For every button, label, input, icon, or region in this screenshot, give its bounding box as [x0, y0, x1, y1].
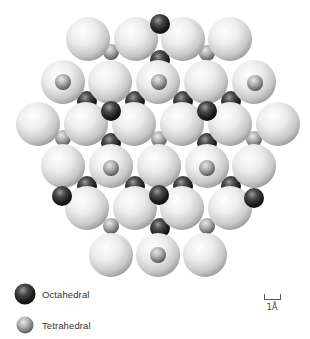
tetrahedral-site-atom [247, 75, 263, 91]
tetrahedral-site-atom [103, 160, 119, 176]
large-atom [232, 144, 276, 188]
atomic-lattice-diagram [0, 0, 310, 280]
tetrahedral-site-atom [151, 74, 167, 90]
large-atom [66, 17, 110, 61]
large-atom [16, 102, 60, 146]
scale-bar: 1Å [258, 294, 286, 312]
tetrahedral-site-atom [55, 74, 71, 90]
scale-bar-label: 1Å [258, 302, 286, 312]
light-sphere-icon [16, 316, 34, 334]
large-atom [41, 144, 85, 188]
scale-bar-bracket [264, 294, 281, 300]
octahedral-site-atom [244, 188, 264, 208]
tetrahedral-site-atom [150, 247, 166, 263]
octahedral-site-atom [52, 186, 72, 206]
dark-sphere-icon [14, 283, 36, 305]
legend-item-octahedral: Octahedral [14, 283, 89, 305]
large-atom [65, 186, 109, 230]
octahedral-site-atom [149, 185, 169, 205]
legend-label-octahedral: Octahedral [42, 289, 89, 300]
tetrahedral-site-atom [199, 160, 215, 176]
octahedral-site-atom [101, 101, 121, 121]
octahedral-site-atom [197, 101, 217, 121]
large-atom [208, 17, 252, 61]
legend-label-tetrahedral: Tetrahedral [42, 320, 91, 331]
large-atom [137, 144, 181, 188]
large-atom [208, 186, 252, 230]
legend-item-tetrahedral: Tetrahedral [16, 316, 91, 334]
large-atom [183, 233, 227, 277]
octahedral-site-atom [150, 14, 170, 34]
large-atom [88, 60, 132, 104]
large-atom [184, 60, 228, 104]
tetrahedral-site-atom [103, 218, 119, 234]
large-atom [256, 102, 300, 146]
large-atom [89, 233, 133, 277]
